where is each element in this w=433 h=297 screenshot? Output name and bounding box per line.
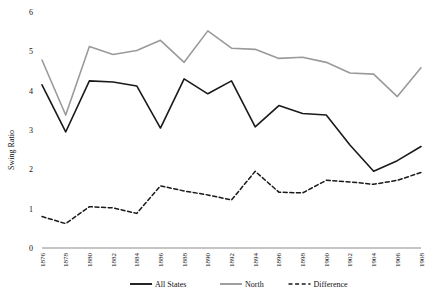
y-axis-title: Swing Ratio (7, 130, 16, 170)
x-axis-tick-label: 1900 (323, 253, 331, 268)
x-axis-tick-label: 1892 (228, 253, 236, 268)
x-axis-tick-label: 1896 (275, 253, 283, 268)
y-axis-tick-label: 0 (29, 244, 33, 253)
x-axis-tick-label: 1880 (86, 253, 94, 268)
x-axis-tick-label: 1888 (181, 253, 189, 268)
x-axis-tick-label: 1878 (62, 253, 70, 268)
x-axis-tick-label: 1906 (394, 253, 402, 268)
x-axis-tick-label: 1886 (157, 253, 165, 268)
x-axis-tick-label: 1884 (133, 253, 141, 268)
x-axis-tick-label: 1890 (204, 253, 212, 268)
x-axis-tick-label: 1898 (299, 253, 307, 268)
y-axis-tick-label: 4 (29, 87, 33, 96)
legend-label-north: North (245, 280, 264, 289)
chart-background (0, 0, 433, 297)
legend-label-difference: Difference (314, 280, 349, 289)
x-axis-tick-label: 1908 (418, 253, 426, 268)
x-axis-tick-label: 1882 (110, 253, 118, 268)
x-axis-tick-label: 1894 (252, 253, 260, 268)
x-axis-tick-label: 1904 (370, 253, 378, 268)
y-axis-tick-label: 6 (29, 8, 33, 17)
line-chart-canvas: 0123456 18761878188018821884188618881890… (0, 0, 433, 297)
chart-figure: 0123456 18761878188018821884188618881890… (0, 0, 433, 297)
legend-label-all-states: All States (155, 280, 186, 289)
x-axis-tick-label: 1876 (39, 253, 47, 268)
y-axis-tick-label: 2 (29, 165, 33, 174)
y-axis-tick-label: 1 (29, 205, 33, 214)
x-axis-tick-label: 1902 (346, 253, 354, 268)
y-axis-tick-label: 5 (29, 47, 33, 56)
y-axis-tick-label: 3 (29, 126, 33, 135)
